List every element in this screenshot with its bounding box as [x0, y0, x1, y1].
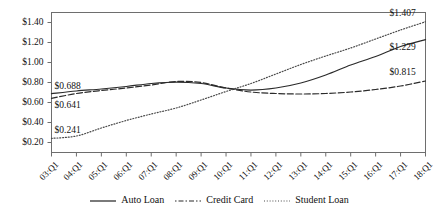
data-label: $1.229 [390, 43, 416, 53]
data-label: $0.641 [55, 101, 81, 111]
legend-line-swatch-icon [90, 196, 116, 204]
legend-item-auto-loan[interactable]: Auto Loan [90, 194, 164, 205]
data-label: $0.815 [390, 68, 416, 78]
y-tick-label: $1.00 [0, 58, 44, 68]
data-label: $1.407 [390, 9, 416, 19]
series-line [52, 22, 426, 139]
axis-frame [52, 13, 426, 153]
legend-item-credit-card[interactable]: Credit Card [175, 194, 253, 205]
chart-legend: Auto LoanCredit CardStudent Loan [0, 194, 439, 205]
series-line [52, 81, 426, 98]
legend-line-swatch-icon [264, 196, 290, 204]
legend-label: Credit Card [206, 194, 253, 205]
legend-item-student-loan[interactable]: Student Loan [264, 194, 349, 205]
y-tick-label: $1.20 [0, 38, 44, 48]
y-tick-label: $0.80 [0, 78, 44, 88]
line-chart: $0.20$0.40$0.60$0.80$1.00$1.20$1.40 03:Q… [0, 0, 439, 208]
legend-label: Student Loan [295, 194, 349, 205]
legend-label: Auto Loan [121, 194, 164, 205]
y-tick-label: $0.40 [0, 118, 44, 128]
data-label: $0.688 [55, 82, 81, 92]
y-tick-label: $1.40 [0, 18, 44, 28]
series-line [52, 40, 426, 94]
legend-line-swatch-icon [175, 196, 201, 204]
data-label: $0.241 [55, 126, 81, 136]
y-tick-label: $0.60 [0, 98, 44, 108]
y-tick-label: $0.20 [0, 138, 44, 148]
